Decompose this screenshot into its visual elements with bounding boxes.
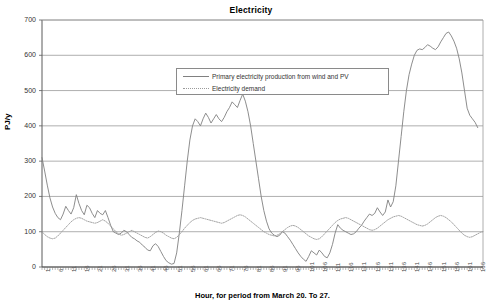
plot-area (0, 0, 502, 308)
legend-item-demand: Electricity demand (183, 83, 265, 94)
legend-label-production: Primary electricity production from wind… (212, 73, 349, 80)
legend-line-dotted-icon (183, 88, 209, 89)
electricity-chart: Electricity PJ/y Hour, for period from M… (0, 0, 502, 308)
legend-line-solid-icon (183, 76, 209, 77)
chart-legend: Primary electricity production from wind… (176, 68, 389, 95)
legend-label-demand: Electricity demand (212, 85, 265, 92)
legend-item-production: Primary electricity production from wind… (183, 71, 349, 82)
